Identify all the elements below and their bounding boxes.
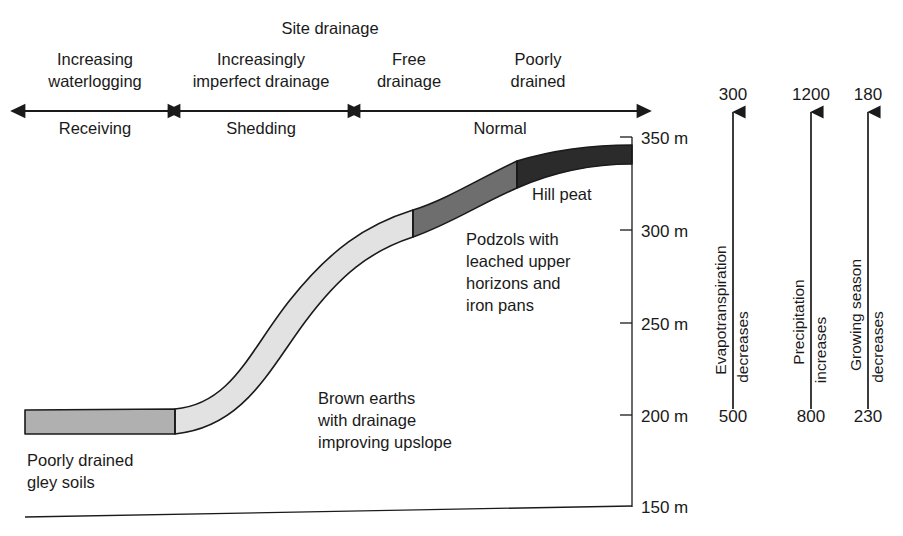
soil-label-podzols-line2: leached upper <box>466 252 571 270</box>
drainage-category-2: Free drainage <box>377 50 441 90</box>
diagram-baseline <box>25 506 632 517</box>
soil-label-gley-line1: Poorly drained <box>27 451 133 469</box>
soil-description-labels: Poorly drained gley soils Brown earths w… <box>27 185 592 491</box>
climate-axis-1-bottom-value: 800 <box>797 407 825 426</box>
drainage-category-1: Increasingly imperfect drainage <box>193 50 330 90</box>
elevation-label-250: 250 m <box>641 315 688 334</box>
drainage-category-1-line1: Increasingly <box>217 50 306 68</box>
drainage-category-3-line2: drained <box>510 72 565 90</box>
climate-axis-2-label-line1: Growing season <box>847 259 864 371</box>
soil-label-brown-earths-line3: improving upslope <box>318 433 452 451</box>
climate-axis-growing-season: 180 Growing season decreases 230 <box>847 85 886 426</box>
drainage-category-3: Poorly drained <box>510 50 565 90</box>
climate-axis-1-label-line1: Precipitation <box>790 279 807 364</box>
flow-category-2-label: Normal <box>473 119 526 137</box>
flow-category-0-label: Receiving <box>59 119 131 137</box>
soil-band-podzols <box>413 161 517 237</box>
soil-label-brown-earths-line1: Brown earths <box>318 389 415 407</box>
elevation-label-200: 200 m <box>641 407 688 426</box>
climate-axis-0-bottom-value: 500 <box>719 407 747 426</box>
drainage-category-0: Increasing waterlogging <box>47 50 142 90</box>
soil-label-podzols-line3: horizons and <box>466 274 560 292</box>
climate-axis-1-top-value: 1200 <box>792 85 830 104</box>
climate-axis-0-top-value: 300 <box>719 85 747 104</box>
soil-label-brown-earths-line2: with drainage <box>317 411 416 429</box>
drainage-category-headers: Increasing waterlogging Increasingly imp… <box>47 50 565 90</box>
drainage-category-0-line2: waterlogging <box>47 72 142 90</box>
climate-axis-2-top-value: 180 <box>854 85 882 104</box>
drainage-category-2-line1: Free <box>392 50 426 68</box>
soil-band-hill-peat <box>517 145 632 188</box>
climate-axis-0-label-line2: decreases <box>734 311 751 383</box>
drainage-category-0-line1: Increasing <box>57 50 133 68</box>
soil-label-podzols-line1: Podzols with <box>466 230 559 248</box>
slope-soil-catena-diagram: Site drainage Increasing waterlogging In… <box>0 0 903 536</box>
climate-axes: 300 Evapotranspiration decreases 500 120… <box>712 85 886 426</box>
elevation-label-300: 300 m <box>641 222 688 241</box>
climate-axis-0-label-line1: Evapotranspiration <box>712 245 729 374</box>
flow-category-labels: Receiving Shedding Normal <box>59 119 527 137</box>
soil-label-podzols-line4: iron pans <box>466 296 534 314</box>
elevation-label-350: 350 m <box>641 129 688 148</box>
climate-axis-2-label-line2: decreases <box>869 311 886 383</box>
climate-axis-1-label-line2: increases <box>812 317 829 384</box>
drainage-category-2-line2: drainage <box>377 72 441 90</box>
drainage-category-1-line2: imperfect drainage <box>193 72 330 90</box>
soil-band-gley <box>25 409 175 434</box>
soil-label-hill-peat-line1: Hill peat <box>532 185 592 203</box>
climate-axis-2-bottom-value: 230 <box>854 407 882 426</box>
drainage-category-3-line1: Poorly <box>515 50 563 68</box>
soil-label-gley-line2: gley soils <box>27 473 95 491</box>
elevation-label-150: 150 m <box>641 498 688 517</box>
climate-axis-evapotranspiration: 300 Evapotranspiration decreases 500 <box>712 85 751 426</box>
diagram-title: Site drainage <box>281 19 378 37</box>
flow-category-1-label: Shedding <box>226 119 296 137</box>
climate-axis-precipitation: 1200 Precipitation increases 800 <box>790 85 830 426</box>
